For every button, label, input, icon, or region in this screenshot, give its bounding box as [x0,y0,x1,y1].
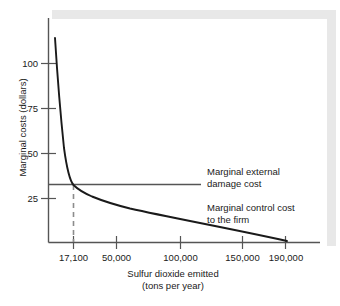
figure-container: 25 50 75 100 17,100 50,000 100,000 150,0… [0,0,340,306]
annotation-mcc-line1: Marginal control cost [207,202,295,214]
annotation-marginal-external-damage-cost: Marginal external damage cost [207,166,280,189]
x-tick-label-100000: 100,000 [147,252,214,263]
x-axis-title-line2: (tons per year) [48,280,298,292]
x-tick-label-190000: 190,000 [253,252,319,263]
x-tick-label-50000: 50,000 [87,252,146,263]
annotation-mcc-line2: to the firm [207,214,295,226]
x-axis-title-line1: Sulfur dioxide emitted [48,268,298,280]
y-axis-title: Marginal costs (dollars) [17,48,28,208]
annotation-marginal-control-cost: Marginal control cost to the firm [207,202,295,225]
annotation-mec-line1: Marginal external [207,166,280,178]
annotation-mec-line2: damage cost [207,178,280,190]
x-axis-title: Sulfur dioxide emitted (tons per year) [48,268,298,292]
